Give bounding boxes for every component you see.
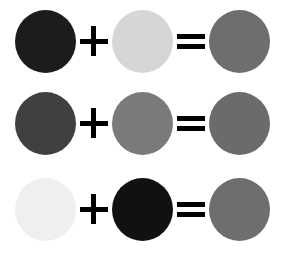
equation-row-3 (0, 178, 285, 242)
equals-icon (177, 116, 205, 132)
operand-circle-1 (15, 10, 76, 73)
equation-row-2 (0, 92, 285, 156)
equation-row-1 (0, 10, 285, 74)
equals-icon (177, 34, 205, 50)
operand-circle-2 (112, 92, 173, 155)
operand-circle-1 (15, 92, 76, 155)
operand-circle-2 (112, 10, 173, 73)
operand-circle-2 (112, 178, 173, 241)
plus-icon (80, 26, 108, 56)
plus-icon (80, 108, 108, 138)
result-circle (209, 10, 270, 73)
result-circle (209, 178, 270, 241)
result-circle (209, 92, 270, 155)
equals-icon (177, 202, 205, 218)
plus-icon (80, 194, 108, 224)
operand-circle-1 (15, 178, 76, 241)
